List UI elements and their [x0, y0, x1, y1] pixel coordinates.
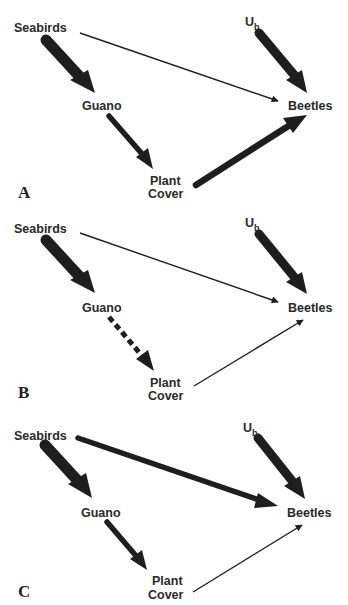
- edge-ub-to-beetles: [258, 438, 305, 499]
- node-plant-cover-line2: Cover: [148, 389, 184, 403]
- node-beetles: Beetles: [287, 506, 332, 520]
- node-plant-cover-line2: Cover: [148, 588, 184, 602]
- edge-seabirds-to-guano: [46, 240, 95, 293]
- node-plant-cover-line2: Cover: [148, 187, 184, 201]
- node-seabirds: Seabirds: [14, 222, 67, 236]
- edge-plant-cover-to-beetles: [193, 525, 302, 592]
- node-ub: Ub: [245, 216, 260, 233]
- panel-b: Seabirds Ub Guano Beetles Plant Cover B: [14, 216, 333, 403]
- node-ub: Ub: [245, 15, 260, 32]
- panel-label-b: B: [18, 383, 29, 402]
- node-guano: Guano: [82, 99, 122, 113]
- edge-plant-cover-to-beetles: [194, 320, 303, 386]
- node-seabirds: Seabirds: [14, 21, 67, 35]
- edge-guano-to-plant-cover: [109, 116, 153, 169]
- edge-guano-to-plant-cover-dashed: [109, 317, 154, 371]
- edge-seabirds-to-guano: [45, 445, 92, 498]
- node-plant-cover-line1: Plant: [152, 574, 183, 588]
- panel-label-c: C: [18, 582, 30, 601]
- node-guano: Guano: [81, 506, 121, 520]
- edge-seabirds-to-beetles: [80, 33, 278, 101]
- panel-a: Seabirds Ub Guano Beetles Plant Cover A: [14, 15, 333, 202]
- panel-c: Seabirds Ub Guano Beetles Plant Cover C: [14, 421, 332, 602]
- node-beetles: Beetles: [288, 99, 333, 113]
- path-diagram-figure: Seabirds Ub Guano Beetles Plant Cover A …: [0, 0, 348, 605]
- node-plant-cover-line1: Plant: [150, 174, 181, 188]
- panel-label-a: A: [18, 183, 31, 202]
- node-seabirds: Seabirds: [14, 429, 67, 443]
- node-ub: Ub: [243, 421, 258, 438]
- edge-seabirds-to-beetles: [78, 438, 278, 508]
- node-beetles: Beetles: [288, 301, 333, 315]
- edge-ub-to-beetles: [259, 33, 307, 93]
- edge-plant-cover-to-beetles: [196, 115, 307, 185]
- edge-guano-to-plant-cover: [107, 522, 147, 570]
- node-guano: Guano: [82, 301, 122, 315]
- edge-seabirds-to-guano: [46, 40, 95, 93]
- edge-seabirds-to-beetles: [80, 233, 278, 302]
- edge-ub-to-beetles: [259, 234, 307, 294]
- node-plant-cover-line1: Plant: [150, 376, 181, 390]
